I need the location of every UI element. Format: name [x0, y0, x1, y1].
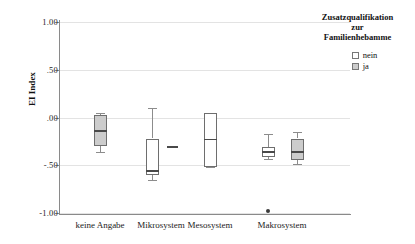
x-axis-line: [59, 214, 351, 215]
box-ja-keine-angabe-cap-upper: [96, 113, 105, 114]
legend-swatch-nein-icon: [352, 52, 359, 59]
box-nein-makrosystem-cap-lower: [264, 159, 273, 160]
legend-title-line-2: zur: [300, 22, 415, 32]
x-tick-label-mikrosystem: Mikrosystem: [137, 220, 185, 230]
x-tick-label-mesosystem: Mesosystem: [188, 220, 233, 230]
box-nein-mikrosystem-cap-lower: [148, 180, 157, 181]
box-ja-makrosystem-cap-upper: [293, 132, 302, 133]
legend-title-line-1: Zusatzqualifikation: [300, 12, 415, 22]
y-tick-label: -1.00: [39, 208, 58, 218]
box-nein-mikrosystem-median: [146, 170, 159, 172]
legend-swatch-ja-icon: [352, 63, 359, 70]
box-nein-makrosystem-outlier-0: [266, 209, 270, 213]
x-tick-label-keine-angabe: keine Angabe: [75, 220, 124, 230]
box-nein-mikrosystem-cap-upper: [148, 108, 157, 109]
box-nein-mesosystem-median: [204, 139, 217, 141]
y-tick-label: -.50: [44, 160, 58, 170]
box-nein-makrosystem-whisker-upper: [268, 134, 269, 147]
gridline: [60, 213, 350, 214]
box-nein-mesosystem-cap-lower: [206, 167, 215, 168]
legend-title-line-3: Familienhebamme: [300, 32, 415, 42]
box-nein-makrosystem-cap-upper: [264, 134, 273, 135]
box-nein-makrosystem-median: [262, 151, 275, 153]
y-tick-label: .00: [47, 113, 58, 123]
box-ja-makrosystem: [291, 139, 304, 161]
legend-label-nein: nein: [363, 51, 378, 60]
box-nein-mikrosystem-whisker-upper: [152, 108, 153, 139]
legend-title: Zusatzqualifikation zur Familienhebamme: [300, 12, 415, 42]
legend-entry-ja[interactable]: ja: [352, 62, 378, 71]
y-tick-label: .50: [47, 65, 58, 75]
legend: Zusatzqualifikation zur Familienhebamme …: [300, 12, 415, 74]
legend-label-ja: ja: [363, 62, 369, 71]
y-axis-title: EI Index: [27, 54, 37, 124]
box-ja-keine-angabe-cap-lower: [96, 152, 105, 153]
box-ja-makrosystem-median: [291, 151, 304, 153]
box-ja-mikrosystem: [167, 146, 178, 148]
y-tick-label: 1.00: [42, 17, 58, 27]
legend-entry-nein[interactable]: nein: [352, 51, 378, 60]
box-ja-keine-angabe-median: [94, 130, 107, 132]
box-ja-makrosystem-whisker-upper: [297, 132, 298, 139]
boxplot-chart: EI Index keine AngabeMikrosystemMesosyst…: [0, 0, 415, 244]
box-ja-makrosystem-cap-lower: [293, 164, 302, 165]
legend-items: nein ja: [338, 49, 378, 73]
x-tick-label-makrosystem: Makrosystem: [258, 220, 307, 230]
